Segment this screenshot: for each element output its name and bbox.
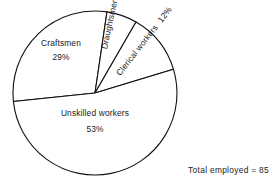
slice-label-unskilled-workers-percent: 53% [41, 124, 149, 135]
pie-chart-figure: Craftsmen 29% Draughtsmen 6% Clerical wo… [0, 0, 275, 191]
slice-label-unskilled-workers: Unskilled workers 53% [41, 108, 149, 135]
pie-chart-canvas [0, 0, 275, 191]
slice-label-craftsmen-name: Craftsmen [30, 38, 92, 49]
slice-label-craftsmen-percent: 29% [30, 52, 92, 63]
total-employed-annotation: Total employed = 85 [188, 165, 269, 175]
slice-label-craftsmen: Craftsmen 29% [30, 38, 92, 63]
slice-label-unskilled-workers-name: Unskilled workers [41, 108, 149, 119]
